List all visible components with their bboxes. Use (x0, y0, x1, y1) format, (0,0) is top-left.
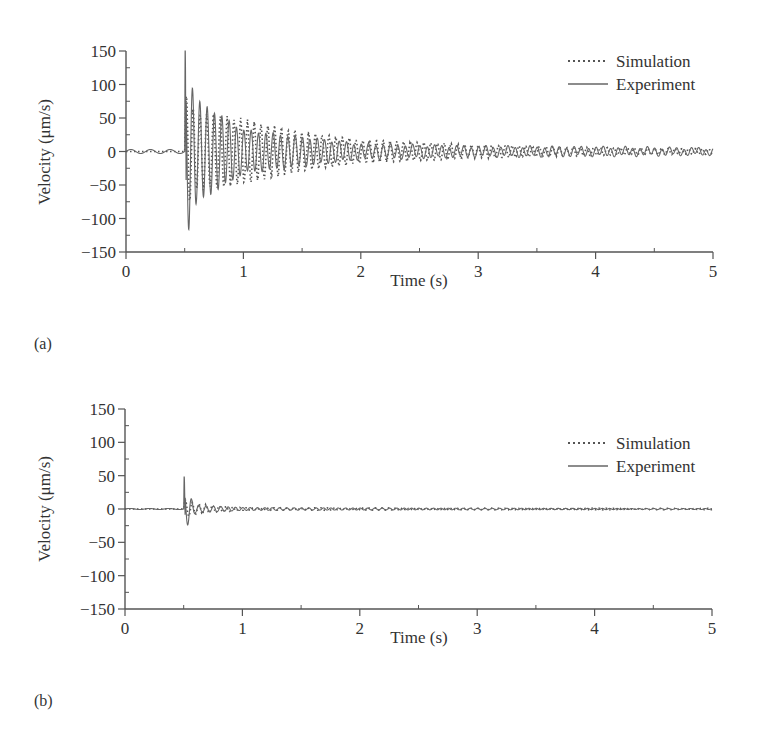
x-tick-label: 2 (356, 619, 365, 638)
x-tick-label: 5 (709, 262, 718, 281)
plot-area-b (125, 477, 712, 525)
y-tick-label: −50 (89, 176, 116, 195)
y-tick-label: 150 (90, 400, 116, 419)
legend-label-simulation: Simulation (616, 434, 691, 453)
panel-label-b: (b) (34, 692, 53, 710)
x-tick-label: 1 (239, 262, 248, 281)
x-tick-label: 3 (474, 262, 483, 281)
y-tick-label: −100 (80, 567, 115, 586)
legend-a: Simulation Experiment (568, 52, 696, 94)
series-experiment (125, 477, 712, 525)
y-axis-title-b: Velocity (μm/s) (35, 456, 54, 562)
y-tick-label: 50 (98, 467, 115, 486)
legend-b: Simulation Experiment (568, 434, 696, 476)
x-tick-label: 0 (122, 262, 131, 281)
y-tick-label: −150 (80, 600, 115, 619)
y-tick-label: −50 (88, 533, 115, 552)
x-tick-label: 5 (708, 619, 717, 638)
y-axis-title-a: Velocity (μm/s) (35, 99, 54, 205)
legend-label-simulation: Simulation (616, 52, 691, 71)
figure: 150100500−50−100−150012345 Time (s) Velo… (0, 0, 758, 744)
chart-panel-a: 150100500−50−100−150012345 Time (s) Velo… (34, 42, 717, 353)
y-tick-label: 100 (91, 76, 117, 95)
y-tick-label: 100 (90, 433, 116, 452)
x-tick-label: 4 (590, 619, 599, 638)
y-tick-label: 150 (91, 42, 117, 61)
y-tick-label: 0 (107, 500, 116, 519)
y-tick-label: 0 (108, 143, 117, 162)
y-tick-label: −100 (81, 210, 116, 229)
x-tick-label: 4 (591, 262, 600, 281)
x-axis-title-a: Time (s) (390, 271, 447, 290)
panel-label-a: (a) (34, 335, 52, 353)
chart-panel-b: 150100500−50−100−150012345 Time (s) Velo… (34, 400, 716, 710)
y-tick-label: −150 (81, 243, 116, 262)
legend-label-experiment: Experiment (616, 75, 696, 94)
y-tick-label: 50 (99, 109, 116, 128)
legend-label-experiment: Experiment (616, 457, 696, 476)
series-simulation (126, 96, 713, 200)
x-tick-label: 3 (473, 619, 482, 638)
x-tick-label: 2 (357, 262, 366, 281)
x-tick-label: 1 (238, 619, 247, 638)
x-axis-title-b: Time (s) (390, 628, 447, 647)
x-tick-label: 0 (121, 619, 130, 638)
